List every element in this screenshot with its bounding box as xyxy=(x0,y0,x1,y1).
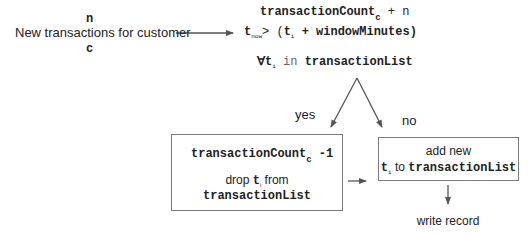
add-line: ti to transactionList xyxy=(379,160,518,176)
to-text: to xyxy=(392,160,409,174)
drop-list: transactionList xyxy=(172,189,342,203)
write-record-label: write record xyxy=(398,214,498,228)
plus-n: + n xyxy=(381,5,410,19)
yes-box: transactionCountc -1 drop ti from transa… xyxy=(171,134,343,211)
transaction-count-var: transactionCount xyxy=(191,147,306,161)
input-label: New transactions for customer xyxy=(15,25,191,40)
condition-line-1: transactionCountc + n xyxy=(260,5,409,23)
no-label: no xyxy=(402,113,416,128)
yes-branch-arrow xyxy=(331,78,357,127)
subscript-now: now xyxy=(251,33,262,40)
transaction-list: transactionList xyxy=(408,161,516,175)
decrement-count: transactionCountc -1 xyxy=(191,147,333,165)
forall-symbol: ∀ xyxy=(257,54,265,68)
minus-one: -1 xyxy=(312,147,334,161)
window-minutes: + windowMinutes) xyxy=(294,25,416,39)
in-keyword: in xyxy=(276,55,305,69)
gt-op: > ( xyxy=(262,25,284,39)
add-new-text: add new xyxy=(379,144,518,158)
input-var-n: n xyxy=(86,12,93,26)
condition-line-3: ∀ti in transactionList xyxy=(257,54,413,70)
t-i: t xyxy=(253,174,260,188)
no-box: add new ti to transactionList xyxy=(378,137,519,181)
yes-label: yes xyxy=(295,107,315,122)
transaction-list: transactionList xyxy=(305,55,413,69)
t-i: t xyxy=(284,25,291,39)
from-text: from xyxy=(261,173,288,187)
drop-line: drop ti from xyxy=(172,173,342,188)
input-var-c: c xyxy=(86,42,93,56)
drop-text: drop xyxy=(225,173,252,187)
transaction-count-var: transactionCount xyxy=(260,5,375,19)
no-branch-arrow xyxy=(357,78,382,127)
t-i: t xyxy=(381,161,388,175)
condition-line-2: tnow> (ti + windowMinutes) xyxy=(244,25,417,40)
